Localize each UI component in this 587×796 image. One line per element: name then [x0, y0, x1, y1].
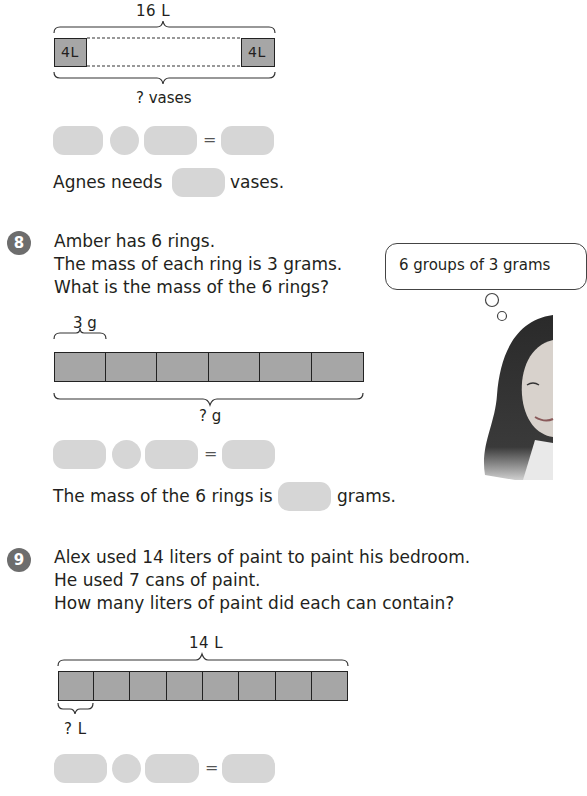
question-line-2: The mass of each ring is 3 grams. — [54, 253, 342, 276]
bar-cell-left: 4L — [54, 38, 87, 67]
bar-cell — [208, 352, 261, 382]
bar-cell — [311, 671, 348, 701]
operator-box[interactable] — [112, 440, 141, 469]
question-line-1: Amber has 6 rings. — [54, 230, 215, 253]
bar-cell — [202, 671, 240, 701]
answer-box-3[interactable] — [222, 754, 275, 783]
equals-sign: = — [205, 758, 218, 777]
problem-number-badge: 9 — [7, 548, 31, 572]
question-line-1: Alex used 14 liters of paint to paint hi… — [54, 546, 470, 569]
bar-cell — [311, 352, 364, 382]
equals-sign: = — [204, 444, 217, 463]
operator-box[interactable] — [112, 754, 141, 783]
answer-text-before: Agnes needs — [53, 171, 162, 194]
answer-box-3[interactable] — [222, 440, 275, 469]
answer-text-after: grams. — [337, 485, 396, 508]
operator-box[interactable] — [110, 126, 139, 155]
bar-cell — [259, 352, 313, 382]
answer-box-1[interactable] — [54, 754, 107, 783]
problem-number-badge: 8 — [7, 231, 31, 255]
question-line-2: He used 7 cans of paint. — [54, 569, 261, 592]
answer-box-1[interactable] — [53, 440, 106, 469]
left-cell-label: 4L — [61, 44, 79, 60]
answer-box-vases[interactable] — [172, 168, 225, 197]
answer-box-2[interactable] — [145, 754, 199, 783]
answer-box-2[interactable] — [145, 440, 198, 469]
bottom-label: ? g — [199, 407, 221, 425]
answer-text-before: The mass of the 6 rings is — [53, 485, 273, 508]
bar-cell — [275, 671, 313, 701]
answer-box-2[interactable] — [144, 126, 197, 155]
thought-bubble: 6 groups of 3 grams — [385, 243, 587, 290]
girl-photo — [475, 315, 555, 485]
unit-label: ? L — [64, 720, 87, 738]
bar-cell — [238, 671, 277, 701]
bar-cell-right: 4L — [241, 38, 275, 67]
bar-cell — [93, 671, 131, 701]
question-line-3: What is the mass of the 6 rings? — [54, 276, 329, 299]
bar-cell — [129, 671, 168, 701]
bottom-label: ? vases — [136, 89, 192, 107]
right-cell-label: 4L — [248, 44, 266, 60]
bar-cell — [58, 671, 95, 701]
answer-box-3[interactable] — [221, 126, 274, 155]
bar-cell — [156, 352, 210, 382]
answer-box-1[interactable] — [53, 126, 103, 155]
question-line-3: How many liters of paint did each can co… — [54, 592, 454, 615]
bar-cell — [166, 671, 204, 701]
equals-sign: = — [203, 130, 216, 149]
answer-box-grams[interactable] — [278, 482, 331, 511]
bar-cell — [54, 352, 107, 382]
bar-cell — [105, 352, 158, 382]
answer-text-after: vases. — [230, 171, 284, 194]
thought-bubble-text: 6 groups of 3 grams — [399, 256, 550, 274]
